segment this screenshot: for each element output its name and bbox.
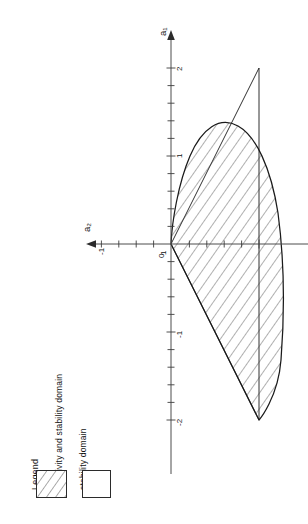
tick-label-a2-neg1: -1 <box>97 247 106 255</box>
legend-swatch-hatched-pattern <box>37 471 66 497</box>
legend-swatch-empty <box>82 470 111 498</box>
axis-label-a2: a₂ <box>81 223 92 232</box>
positivity-and-stability-domain <box>171 123 283 420</box>
tick-label-a1-neg1: -1 <box>175 330 184 338</box>
axis-label-a2-text: a₂ <box>81 223 92 232</box>
axis-a1 <box>167 30 175 474</box>
legend: Legend positivity and stability domain s… <box>2 330 122 520</box>
axis-label-a1-text: a₁ <box>157 28 168 37</box>
origin-label: 0 <box>157 253 166 258</box>
tick-label-a1-1: 1 <box>175 153 184 158</box>
legend-swatch-hatched <box>36 470 67 498</box>
axis-label-a1: a₁ <box>157 28 168 37</box>
tick-label-a1-neg2: -2 <box>175 418 184 426</box>
tick-label-a1-2: 2 <box>175 66 184 71</box>
figure-page: a₁ a₂ 2 1 -1 -2 1 -1 0 Legend positivity… <box>0 0 308 524</box>
